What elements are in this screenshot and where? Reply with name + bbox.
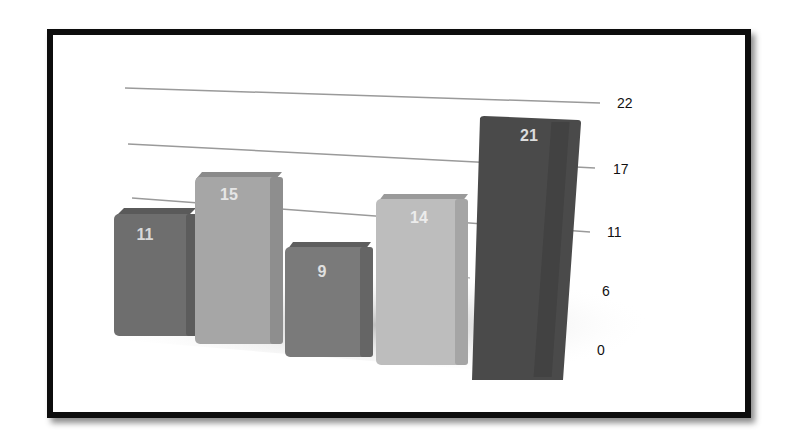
bar-2: 15 [195,172,283,344]
bar-label-1: 11 [137,226,154,243]
y-tick-6: 6 [602,283,610,299]
y-tick-22: 22 [617,95,633,111]
bar-label-2: 15 [220,186,238,203]
bar-label-5: 21 [520,127,538,144]
bar-label-3: 9 [318,263,327,280]
y-tick-0: 0 [597,342,605,358]
bar-label-4: 14 [410,209,428,226]
y-tick-11: 11 [607,224,622,240]
bar-chart: 22 17 11 6 0 11 15 9 14 21 [0,0,798,444]
bar-4: 14 [376,194,468,365]
y-tick-17: 17 [613,161,629,177]
bar-1: 11 [114,208,198,336]
gridline-22 [125,88,600,103]
bar-5: 21 [472,116,581,380]
bar-3: 9 [285,242,373,357]
